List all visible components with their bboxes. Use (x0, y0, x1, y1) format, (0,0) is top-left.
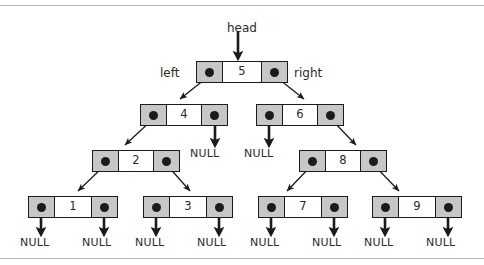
node-8[interactable]: 8 (299, 150, 387, 172)
frame-rule-bottom (0, 258, 484, 259)
node-8-right-pointer-cell (360, 151, 386, 171)
node-6-left-pointer-cell (257, 105, 283, 125)
node-1[interactable]: 1 (28, 196, 118, 218)
node-3[interactable]: 3 (143, 196, 233, 218)
pointer-dot-icon (100, 203, 109, 212)
bst-diagram: head left right 5 4 6 2 (0, 0, 484, 265)
node-9[interactable]: 9 (372, 196, 462, 218)
pointer-dot-icon (152, 203, 161, 212)
node-2-right-pointer-cell (153, 151, 179, 171)
node-7-value: 7 (285, 197, 321, 217)
null-label-n6-left: NULL (244, 148, 273, 159)
node-1-left-pointer-cell (29, 197, 55, 217)
node-1-value: 1 (55, 197, 91, 217)
pointer-dot-icon (326, 111, 335, 120)
node-7[interactable]: 7 (258, 196, 348, 218)
null-label-n7-left: NULL (250, 237, 279, 248)
pointer-dot-icon (101, 157, 110, 166)
pointer-dot-icon (308, 157, 317, 166)
null-label-n4-right: NULL (190, 148, 219, 159)
node-9-right-pointer-cell (435, 197, 461, 217)
node-6-right-pointer-cell (317, 105, 343, 125)
node-3-right-pointer-cell (206, 197, 232, 217)
node-2[interactable]: 2 (92, 150, 180, 172)
node-5-value: 5 (223, 62, 261, 82)
pointer-dot-icon (444, 203, 453, 212)
pointer-dot-icon (330, 203, 339, 212)
node-7-left-pointer-cell (259, 197, 285, 217)
pointer-dot-icon (369, 157, 378, 166)
node-1-right-pointer-cell (91, 197, 117, 217)
pointer-dot-icon (381, 203, 390, 212)
null-label-n3-left: NULL (135, 237, 164, 248)
node-6[interactable]: 6 (256, 104, 344, 126)
node-9-value: 9 (399, 197, 435, 217)
arrow-layer (0, 0, 484, 265)
right-label: right (294, 67, 322, 79)
node-4[interactable]: 4 (140, 104, 228, 126)
node-4-right-pointer-cell (201, 105, 227, 125)
node-8-left-pointer-cell (300, 151, 326, 171)
pointer-dot-icon (265, 111, 274, 120)
node-3-value: 3 (170, 197, 206, 217)
node-5[interactable]: 5 (196, 61, 288, 83)
pointer-dot-icon (149, 111, 158, 120)
node-5-right-pointer-cell (261, 62, 287, 82)
node-4-value: 4 (167, 105, 201, 125)
null-label-n9-right: NULL (426, 237, 455, 248)
left-label: left (160, 67, 179, 79)
pointer-dot-icon (205, 68, 214, 77)
null-label-n7-right: NULL (312, 237, 341, 248)
node-9-left-pointer-cell (373, 197, 399, 217)
pointer-dot-icon (267, 203, 276, 212)
null-label-n1-left: NULL (20, 237, 49, 248)
node-7-right-pointer-cell (321, 197, 347, 217)
pointer-dot-icon (215, 203, 224, 212)
null-label-n1-right: NULL (82, 237, 111, 248)
pointer-dot-icon (162, 157, 171, 166)
null-label-n9-left: NULL (364, 237, 393, 248)
node-8-value: 8 (326, 151, 360, 171)
frame-rule-top (0, 5, 484, 6)
pointer-dot-icon (37, 203, 46, 212)
node-2-left-pointer-cell (93, 151, 119, 171)
head-label: head (227, 22, 257, 34)
pointer-dot-icon (270, 68, 279, 77)
node-5-left-pointer-cell (197, 62, 223, 82)
node-4-left-pointer-cell (141, 105, 167, 125)
node-6-value: 6 (283, 105, 317, 125)
null-label-n3-right: NULL (197, 237, 226, 248)
node-2-value: 2 (119, 151, 153, 171)
pointer-dot-icon (210, 111, 219, 120)
node-3-left-pointer-cell (144, 197, 170, 217)
